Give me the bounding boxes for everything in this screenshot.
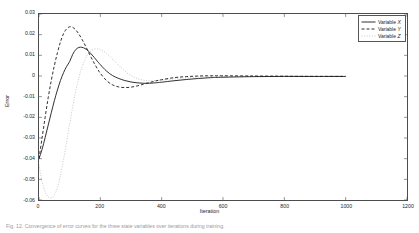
- y-tick-label: 0.02: [14, 31, 35, 36]
- y-tick-label: 0: [14, 73, 35, 78]
- series-line-variable-z: [39, 49, 346, 198]
- y-tick-label: -0.02: [14, 115, 35, 120]
- figure-caption: Fig. 12. Convergence of error curves for…: [6, 223, 414, 231]
- legend: Variable X Variable Y Variable Z: [358, 15, 406, 42]
- legend-label-variable-x: Variable X: [376, 19, 401, 25]
- y-tick-label: -0.04: [14, 157, 35, 162]
- legend-label-variable-z: Variable Z: [376, 33, 400, 39]
- y-tick-label: 0.03: [14, 10, 35, 15]
- y-tick-label: -0.03: [14, 136, 35, 141]
- legend-item-variable-z: Variable Z: [361, 32, 403, 39]
- legend-swatch-dotted-icon: [361, 33, 376, 39]
- y-tick-label: -0.01: [14, 94, 35, 99]
- legend-swatch-dashed-icon: [361, 26, 376, 32]
- x-axis-label: Iteration: [0, 208, 419, 214]
- figure-container: Error 0.03 0.02 0.01 0 -0.01 -0.02 -0.03…: [0, 0, 419, 233]
- series-line-variable-x: [39, 47, 346, 159]
- series-line-variable-y: [39, 27, 346, 159]
- plot-svg: [39, 14, 407, 200]
- legend-label-variable-y: Variable Y: [376, 26, 401, 32]
- legend-item-variable-y: Variable Y: [361, 25, 403, 32]
- y-tick-label: 0.01: [14, 52, 35, 57]
- y-tick-label: -0.05: [14, 177, 35, 182]
- y-tick-label: -0.06: [14, 198, 35, 203]
- legend-swatch-solid-icon: [361, 19, 376, 25]
- y-axis-label-wrap: Error: [1, 0, 13, 201]
- legend-item-variable-x: Variable X: [361, 18, 403, 25]
- y-axis-label: Error: [4, 95, 10, 107]
- plot-area: [38, 13, 408, 201]
- axis-ticks: [39, 14, 407, 200]
